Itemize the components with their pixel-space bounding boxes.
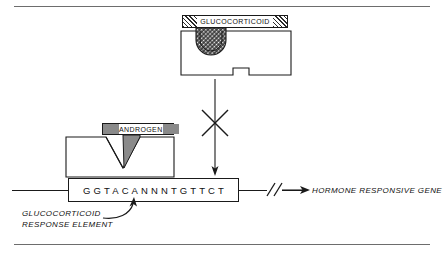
dna-strand-right [282, 190, 306, 191]
androgen-solid-cap-left [103, 124, 119, 134]
glucocorticoid-hatch-cap-left [183, 16, 197, 27]
hormone-responsive-gene-label: HORMONE RESPONSIVE GENE [312, 185, 442, 196]
figure-bottom-rule [14, 244, 430, 245]
androgen-receptor-label-line1: ANDROGEN [130, 148, 173, 157]
androgen-solid-cap-right [163, 124, 179, 134]
androgen-receptor-label: ANDROGEN RECEPTOR [130, 148, 173, 165]
dna-sequence-text: GGTACANNNTGTTCT [80, 185, 227, 196]
androgen-ligand-bar: ANDROGEN [102, 123, 174, 135]
blocked-interaction-x-icon [202, 110, 228, 136]
glucocorticoid-ligand-label: GLUCOCORTICOID [197, 16, 273, 27]
gre-caption-line1: GLUCOCORTICOID [22, 208, 113, 219]
androgen-receptor-label-line2: RECEPTOR [130, 157, 173, 166]
glucocorticoid-response-element-box: GGTACANNNTGTTCT [68, 178, 239, 202]
glucocorticoid-hatch-cap-right [273, 16, 287, 27]
gr-to-dna-arrowhead [212, 166, 219, 176]
figure-canvas: GLUCOCORTICOID GLUCOCORTICOID RECEPTOR A… [0, 0, 444, 255]
dna-strand-left [12, 190, 68, 191]
glucocorticoid-response-element-caption: GLUCOCORTICOID RESPONSE ELEMENT [22, 208, 113, 230]
glucocorticoid-ligand-bar: GLUCOCORTICOID [182, 15, 288, 28]
dna-strand-break-slashes [267, 183, 282, 196]
glucocorticoid-receptor-label-line2: RECEPTOR [216, 51, 285, 60]
gre-caption-line2: RESPONSE ELEMENT [22, 219, 113, 230]
figure-top-rule [14, 6, 430, 7]
glucocorticoid-receptor-label: GLUCOCORTICOID RECEPTOR [216, 42, 285, 59]
dna-strand-middle [239, 190, 267, 191]
androgen-ligand-label: ANDROGEN [119, 124, 163, 134]
androgen-notch-edge [106, 137, 123, 168]
glucocorticoid-receptor-label-line1: GLUCOCORTICOID [216, 42, 285, 51]
